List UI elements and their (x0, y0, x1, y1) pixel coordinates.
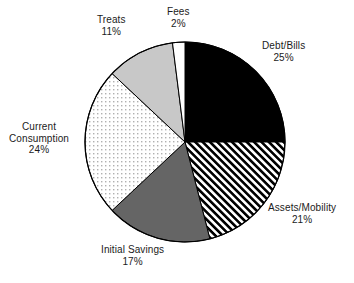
pie-slices-group (85, 42, 285, 242)
slice-label-current-consumption: Current Consumption 24% (9, 121, 69, 156)
pie-chart: Debt/Bills 25% Assets/Mobility 21% Initi… (0, 0, 354, 283)
slice-label-assets-mobility-name: Assets/Mobility (268, 202, 336, 214)
slice-label-current-consumption-name-line2: Consumption (9, 133, 69, 145)
slice-label-fees-name: Fees (167, 6, 190, 18)
slice-label-fees-value: 2% (167, 18, 190, 30)
slice-label-current-consumption-value: 24% (9, 144, 69, 156)
slice-label-treats-name: Treats (97, 14, 126, 26)
slice-label-treats: Treats 11% (97, 14, 126, 37)
slice-label-initial-savings-name: Initial Savings (101, 244, 164, 256)
slice-label-current-consumption-name-line1: Current (9, 121, 69, 133)
slice-label-debt-bills-value: 25% (262, 52, 305, 64)
slice-label-treats-value: 11% (97, 26, 126, 38)
slice-label-debt-bills: Debt/Bills 25% (262, 40, 305, 63)
slice-label-assets-mobility: Assets/Mobility 21% (268, 202, 336, 225)
slice-label-fees: Fees 2% (167, 6, 190, 29)
slice-label-assets-mobility-value: 21% (268, 214, 336, 226)
slice-label-initial-savings: Initial Savings 17% (101, 244, 164, 267)
slice-label-initial-savings-value: 17% (101, 256, 164, 268)
slice-label-debt-bills-name: Debt/Bills (262, 40, 305, 52)
